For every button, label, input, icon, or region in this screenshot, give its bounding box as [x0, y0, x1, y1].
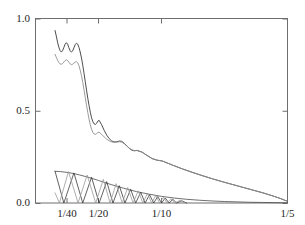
x-tick-label: 1/10: [146, 208, 178, 219]
figure-background: [0, 0, 305, 225]
x-tick-label: 1/5: [272, 208, 304, 219]
y-tick-label: 0.0: [0, 197, 30, 208]
figure-container: 1.00.50.0 1/401/201/101/5: [0, 0, 305, 225]
y-tick-label: 0.5: [0, 105, 30, 116]
y-tick-label: 1.0: [0, 13, 30, 24]
x-tick-label: 1/20: [83, 208, 115, 219]
x-tick-label: 1/40: [51, 208, 83, 219]
plot-canvas: [0, 0, 305, 225]
